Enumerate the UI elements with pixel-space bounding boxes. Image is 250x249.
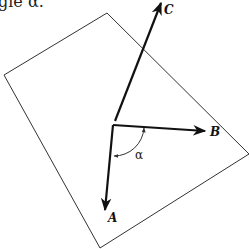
vector-b — [113, 125, 205, 131]
label-b: B — [209, 125, 220, 139]
label-a: A — [107, 211, 117, 225]
vector-diagram: C B A α — [0, 0, 250, 249]
vector-c — [115, 3, 161, 121]
label-alpha: α — [135, 148, 143, 162]
label-c: C — [164, 3, 174, 17]
vector-a — [105, 125, 113, 210]
